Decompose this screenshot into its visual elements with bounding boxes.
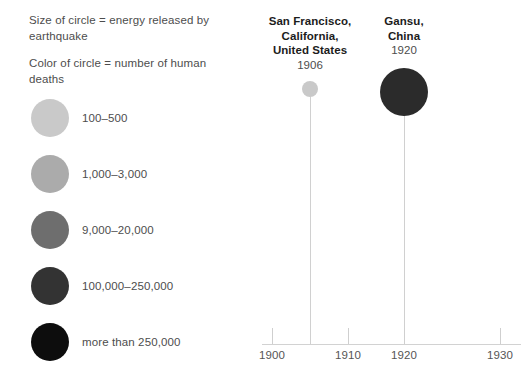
legend-item-label: 100–500	[82, 111, 128, 125]
axis-tick-mark	[404, 328, 405, 344]
axis-tick-label: 1910	[335, 349, 361, 361]
legend-item-label: 100,000–250,000	[82, 279, 173, 293]
event-year: 1906	[269, 58, 352, 73]
legend-note-size: Size of circle = energy released by eart…	[29, 13, 229, 44]
event-place-name: China	[384, 29, 423, 44]
timeline-axis-line	[262, 344, 521, 345]
earthquake-circle-marker[interactable]	[380, 68, 428, 116]
legend-item: 100,000–250,000	[0, 267, 255, 307]
earthquake-timeline-chart: San Francisco,California,United States19…	[255, 0, 521, 381]
legend-item: 9,000–20,000	[0, 211, 255, 251]
legend-circle-swatch	[31, 99, 69, 137]
legend-item-label: 1,000–3,000	[82, 167, 147, 181]
event-place-name: California,	[269, 29, 352, 44]
event-label: Gansu,China1920	[384, 14, 423, 58]
legend-item: more than 250,000	[0, 323, 255, 363]
event-stem-line	[404, 92, 405, 344]
axis-tick-mark	[500, 328, 501, 344]
legend-item: 1,000–3,000	[0, 155, 255, 195]
legend-panel: Size of circle = energy released by eart…	[0, 0, 255, 381]
event-label: San Francisco,California,United States19…	[269, 14, 352, 72]
event-stem-line	[310, 89, 311, 344]
legend-circle-swatch	[31, 211, 69, 249]
axis-tick-mark	[348, 328, 349, 344]
legend-circle-swatch	[31, 323, 69, 361]
axis-tick-mark	[272, 328, 273, 344]
event-place-name: Gansu,	[384, 14, 423, 29]
event-place-name: San Francisco,	[269, 14, 352, 29]
event-place-name: United States	[269, 43, 352, 58]
axis-tick-label: 1920	[391, 349, 417, 361]
legend-item-label: 9,000–20,000	[82, 223, 154, 237]
legend-circle-swatch	[31, 155, 69, 193]
event-year: 1920	[384, 43, 423, 58]
earthquake-circle-marker[interactable]	[302, 81, 318, 97]
legend-item: 100–500	[0, 99, 255, 139]
legend-note-color: Color of circle = number of human deaths	[29, 56, 229, 87]
axis-tick-label: 1930	[487, 349, 513, 361]
legend-item-label: more than 250,000	[82, 335, 181, 349]
legend-circle-swatch	[31, 267, 69, 305]
axis-tick-label: 1900	[259, 349, 285, 361]
